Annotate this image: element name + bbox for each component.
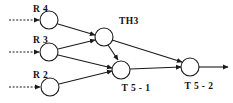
- node-t5-1[interactable]: [112, 61, 130, 79]
- node-r2[interactable]: [41, 78, 59, 96]
- label-t5-2: T 5 - 2: [185, 81, 214, 91]
- label-r3: R 3: [33, 35, 48, 45]
- label-r4: R 4: [33, 4, 48, 14]
- node-th3[interactable]: [95, 28, 113, 46]
- edge-r3-to-t51: [58, 55, 112, 68]
- edge-r2-to-t51: [59, 71, 112, 84]
- label-th3: TH3: [119, 16, 139, 26]
- edge-t51-to-t52: [130, 67, 181, 69]
- label-t5-1: T 5 - 1: [122, 83, 151, 93]
- edge-th3-to-t52: [112, 40, 182, 62]
- edge-th3-to-t51: [108, 45, 118, 60]
- edge-r4-to-th3: [58, 24, 95, 35]
- node-t5-2[interactable]: [181, 58, 199, 76]
- diagram-canvas: R 4 R 3 R 2 TH3 T 5 - 1 T 5 - 2: [0, 0, 233, 103]
- edge-r3-to-th3: [58, 40, 95, 49]
- label-r2: R 2: [33, 70, 48, 80]
- petri-net-diagram: R 4 R 3 R 2 TH3 T 5 - 1 T 5 - 2: [0, 0, 233, 103]
- node-r3[interactable]: [40, 43, 58, 61]
